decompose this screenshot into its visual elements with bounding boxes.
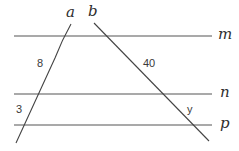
segment-label-b-np: y bbox=[187, 104, 193, 115]
transversal-b bbox=[94, 23, 209, 141]
segment-label-a-np: 3 bbox=[16, 104, 22, 115]
label-line-b: b bbox=[88, 4, 98, 19]
label-line-p: p bbox=[220, 116, 230, 131]
segment-label-a-mn: 8 bbox=[37, 58, 43, 69]
label-line-n: n bbox=[220, 85, 230, 100]
diagram-lines bbox=[0, 0, 239, 151]
diagram-canvas: a b m n p 8 40 3 y bbox=[0, 0, 239, 151]
segment-label-b-mn: 40 bbox=[143, 58, 155, 69]
label-line-m: m bbox=[218, 27, 232, 42]
label-line-a: a bbox=[66, 5, 75, 20]
